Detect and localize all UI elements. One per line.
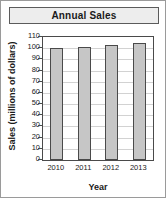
chart-title-bar: Annual Sales xyxy=(9,7,159,24)
x-axis-title-text: Year xyxy=(88,182,107,192)
x-tick-label-2012: 2012 xyxy=(102,163,119,172)
x-axis-tick-labels: 2010201120122013 xyxy=(42,163,154,175)
page-title: Annual Sales xyxy=(51,10,116,21)
bar-2010 xyxy=(50,48,63,160)
chart-figure: Annual Sales Sales (millions of dollars)… xyxy=(0,0,166,198)
y-axis-title: Sales (millions of dollars) xyxy=(5,31,19,161)
y-axis-tick-labels: 1101009080706050403020100 xyxy=(19,36,40,161)
bar-2013 xyxy=(133,43,146,160)
bar-2011 xyxy=(78,47,91,160)
x-tick-label-2010: 2010 xyxy=(47,163,64,172)
plot-area xyxy=(42,36,154,161)
x-axis-title: Year xyxy=(42,176,154,194)
y-axis-title-text: Sales (millions of dollars) xyxy=(7,41,17,150)
x-tick-label-2013: 2013 xyxy=(130,163,147,172)
x-tick-label-2011: 2011 xyxy=(75,163,91,172)
bar-2012 xyxy=(105,45,118,160)
